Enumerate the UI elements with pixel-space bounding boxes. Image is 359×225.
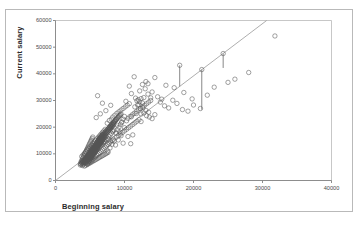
y-tick-label: 40000	[36, 70, 52, 76]
x-tick-label: 10000	[116, 185, 134, 191]
figure-root: Current salary Beginning salary 01000020…	[0, 0, 359, 225]
x-tick-label: 0	[47, 185, 65, 191]
x-tick-label: 40000	[323, 185, 341, 191]
y-tick-label: 20000	[36, 124, 52, 130]
y-axis-label: Current salary	[15, 10, 24, 96]
y-tick-label: 10000	[36, 150, 52, 156]
y-tick-label: 60000	[36, 17, 52, 23]
y-tick-label: 50000	[36, 44, 52, 50]
y-tick-label: 30000	[36, 97, 52, 103]
y-tick-label: 0	[48, 177, 51, 183]
x-tick-label: 20000	[185, 185, 203, 191]
x-axis-label: Beginning salary	[62, 202, 124, 211]
scatter-plot	[0, 0, 359, 225]
x-tick-label: 30000	[254, 185, 272, 191]
